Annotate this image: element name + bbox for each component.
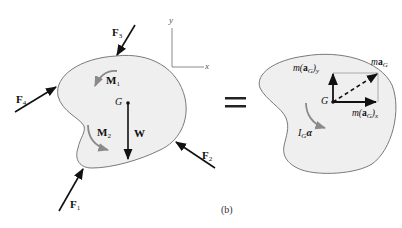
coordinate-axes — [172, 28, 204, 67]
force-label-f1: F1 — [70, 199, 80, 212]
moment-label-m2: M2 — [97, 127, 111, 140]
force-label-f3: F3 — [112, 27, 122, 40]
axis-y-label: y — [169, 16, 173, 25]
center-of-mass-dot-right — [331, 100, 335, 104]
axis-x-label: x — [205, 62, 209, 71]
figure-caption: (b) — [221, 205, 233, 215]
equals-sign — [225, 97, 246, 108]
weight-label: W — [134, 128, 145, 139]
center-label-right: G — [321, 96, 328, 106]
max-label: m(aG)x — [352, 109, 378, 120]
mag-label: maG — [371, 58, 388, 69]
diagram-canvas — [0, 0, 402, 228]
inertia-label: IGα — [298, 128, 312, 140]
may-label: m(aG)y — [293, 64, 319, 75]
force-label-f4: F4 — [16, 94, 26, 107]
free-body-outline — [58, 55, 187, 168]
moment-label-m1: M1 — [106, 75, 120, 88]
force-label-f2: F2 — [202, 150, 212, 163]
center-label-left: G — [115, 97, 122, 107]
